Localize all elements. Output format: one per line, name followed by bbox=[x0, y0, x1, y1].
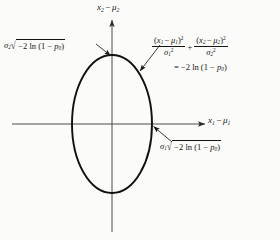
equation-term-1: (x1−μ1)2 σ12 bbox=[152, 36, 185, 58]
sigma1-radicand-close: ) bbox=[217, 141, 220, 151]
equation-rhs: = −2 ln (1 − p0) bbox=[152, 63, 228, 73]
term-1-denominator: σ12 bbox=[164, 47, 173, 57]
equation-rhs-value: −2 ln (1 − bbox=[181, 62, 217, 72]
term-2-num-power: 2 bbox=[223, 35, 226, 41]
term-1-num-power: 2 bbox=[181, 35, 184, 41]
radical-icon: √ bbox=[11, 40, 16, 51]
sigma2-radicand-close: ) bbox=[61, 40, 64, 50]
sigma2-radicand: −2 ln (1 − p0) bbox=[16, 39, 65, 51]
y-axis-label-mu-sub: 2 bbox=[116, 7, 119, 13]
sigma1-radicand-lead: −2 ln (1 − bbox=[174, 141, 210, 151]
term-2-den-power: 2 bbox=[213, 47, 216, 53]
term-2-numerator: (x2−μ2)2 bbox=[194, 36, 227, 47]
ellipse-equation: (x1−μ1)2 σ12 + (x2−μ2)2 σ22 = −2 ln (1 −… bbox=[152, 36, 228, 73]
ellipse-probability-figure: x2−μ2 x1−μ1 σ2√−2 ln (1 − p0) σ1√−2 ln (… bbox=[0, 0, 280, 240]
x-axis-label-mu-sub: 1 bbox=[227, 120, 230, 126]
semi-major-axis-label: σ1√−2 ln (1 − p0) bbox=[160, 140, 221, 152]
equation-plus-sign: + bbox=[187, 43, 192, 52]
semi-minor-axis-label: σ2√−2 ln (1 − p0) bbox=[4, 39, 65, 51]
term-1-num-minus: − bbox=[163, 35, 171, 45]
equation-equals-sign: = bbox=[174, 62, 179, 72]
y-axis-label: x2−μ2 bbox=[97, 3, 119, 13]
figure-canvas bbox=[0, 0, 280, 240]
sigma2-radicand-lead: −2 ln (1 − bbox=[18, 40, 54, 50]
term-2-denominator: σ22 bbox=[206, 47, 215, 57]
term-1-numerator: (x1−μ1)2 bbox=[152, 36, 185, 47]
x-axis-label: x1−μ1 bbox=[208, 116, 230, 126]
radical-icon: √ bbox=[167, 141, 172, 152]
term-1-den-power: 2 bbox=[171, 47, 174, 53]
equation-lhs: (x1−μ1)2 σ12 + (x2−μ2)2 σ22 bbox=[152, 36, 228, 58]
leader-line-sigma2 bbox=[96, 44, 111, 56]
equation-rhs-close: ) bbox=[224, 62, 227, 72]
sigma1-radicand: −2 ln (1 − p0) bbox=[172, 140, 221, 152]
y-axis-label-minus: − bbox=[104, 2, 112, 12]
x-axis-label-minus: − bbox=[215, 115, 223, 125]
equation-term-2: (x2−μ2)2 σ22 bbox=[194, 36, 227, 58]
